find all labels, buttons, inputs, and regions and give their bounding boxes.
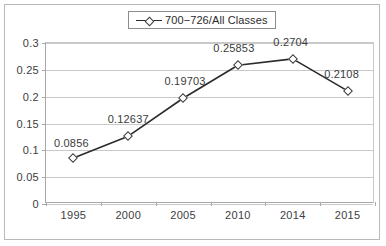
data-point-label: 0.0856 [54, 137, 89, 149]
y-axis-label: 0.2 [23, 91, 39, 103]
y-axis-label: 0 [33, 198, 39, 210]
y-axis-label: 0.15 [16, 118, 39, 130]
plot-area: 00.050.10.150.20.250.3 19952000200520102… [45, 42, 374, 203]
legend-label: 700−726/All Classes [165, 14, 268, 26]
y-axis-label: 0.1 [23, 144, 39, 156]
chart-frame: 700−726/All Classes 00.050.10.150.20.250… [4, 4, 380, 240]
y-axis-label: 0.05 [16, 171, 39, 183]
data-point-label: 0.25853 [213, 42, 254, 54]
x-axis-label: 1995 [61, 209, 87, 221]
x-axis-label: 2014 [280, 209, 306, 221]
legend-entry-series-1: 700−726/All Classes [136, 14, 268, 26]
data-point-label: 0.2704 [273, 36, 308, 48]
chart-legend: 700−726/All Classes [128, 11, 276, 29]
x-axis-tick [375, 202, 376, 206]
y-axis-label: 0.3 [23, 37, 39, 49]
gridline [46, 204, 373, 205]
x-axis-label: 2000 [115, 209, 141, 221]
data-point-label: 0.12637 [108, 113, 149, 125]
x-axis-label: 2010 [225, 209, 251, 221]
legend-line-diamond-marker-icon [136, 16, 162, 25]
data-point-label: 0.19703 [164, 75, 205, 87]
x-axis-label: 2005 [170, 209, 196, 221]
y-axis-label: 0.25 [16, 64, 39, 76]
x-axis-label: 2015 [335, 209, 361, 221]
data-point-label: 0.2108 [324, 68, 359, 80]
